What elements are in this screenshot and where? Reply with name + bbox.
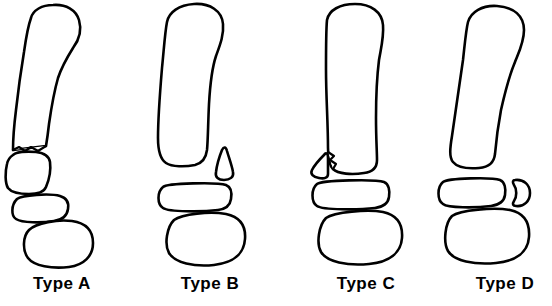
- caption-type-a: Type A: [0, 274, 138, 294]
- distal-joint-bone-a: [24, 220, 93, 267]
- long-bone-shaft-c: [326, 4, 383, 174]
- long-bone-shaft-b: [158, 4, 223, 166]
- panel-type-a: Type A: [0, 0, 138, 306]
- caption-type-d: Type D: [420, 274, 552, 294]
- middle-joint-bone-c: [313, 180, 390, 209]
- distal-joint-bone-c: [319, 211, 403, 265]
- distal-joint-bone-d: [445, 209, 529, 264]
- caption-type-b: Type B: [138, 274, 276, 294]
- medial-fragment-c: [311, 153, 328, 178]
- bone-diagram-type-d: [420, 0, 552, 272]
- fracture-types-figure: Type A Type B Type C: [0, 0, 552, 306]
- panel-type-c: Type C: [286, 0, 424, 306]
- bone-diagram-type-a: [0, 0, 138, 272]
- bone-diagram-type-c: [286, 0, 424, 272]
- distal-bone-a: [6, 152, 51, 194]
- distal-joint-bone-b: [167, 213, 246, 266]
- caption-type-c: Type C: [286, 274, 424, 294]
- panel-type-b: Type B: [138, 0, 276, 306]
- long-bone-shaft-a: [13, 5, 80, 150]
- long-bone-shaft-d: [450, 6, 524, 168]
- bone-diagram-type-b: [138, 0, 276, 272]
- middle-joint-bone-d: [439, 178, 506, 207]
- lateral-fragment-d: [513, 180, 530, 206]
- middle-joint-bone-a: [12, 195, 68, 223]
- middle-joint-bone-b: [159, 183, 232, 211]
- panel-type-d: Type D: [420, 0, 552, 306]
- lateral-fragment-b: [216, 147, 233, 180]
